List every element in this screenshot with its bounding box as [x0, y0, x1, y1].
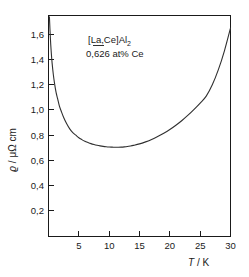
x-tick-label: 5 — [76, 240, 81, 251]
x-axis-title-rest: / K — [194, 257, 209, 268]
x-tick-label: 15 — [134, 240, 145, 251]
annotation-la: La — [91, 34, 102, 45]
y-axis-title-rest: / μΩ cm — [7, 128, 18, 166]
x-tick-label: 25 — [195, 240, 206, 251]
annotation-ce-al: ,Ce]Al — [101, 34, 127, 45]
y-tick-label: 0,4 — [31, 180, 44, 191]
y-tick-label: 0,8 — [31, 130, 44, 141]
annotation-formula: [La,Ce]Al2 — [88, 34, 131, 47]
svg-text:ϱ / μΩ cm: ϱ / μΩ cm — [7, 128, 18, 171]
svg-text:T / K: T / K — [188, 257, 209, 268]
resistivity-chart: 0,2 0,4 0,6 0,8 1,0 1,2 1,4 1,6 5 10 15 … — [0, 0, 249, 277]
x-tick-label: 30 — [225, 240, 236, 251]
annotation-subscript: 2 — [127, 40, 131, 47]
x-tick-label: 10 — [104, 240, 115, 251]
y-tick-label: 1,4 — [31, 54, 44, 65]
y-tick-label: 1,2 — [31, 79, 44, 90]
figure-panel: 0,2 0,4 0,6 0,8 1,0 1,2 1,4 1,6 5 10 15 … — [0, 0, 249, 277]
x-tick-label: 20 — [165, 240, 176, 251]
annotation-concentration: 0,626 at% Ce — [86, 48, 144, 59]
y-tick-label: 1,6 — [31, 29, 44, 40]
y-axis-title: ϱ / μΩ cm — [7, 128, 18, 171]
x-axis-title: T / K — [188, 257, 209, 268]
y-tick-label: 0,6 — [31, 155, 44, 166]
y-tick-label: 1,0 — [31, 104, 44, 115]
y-tick-label: 0,2 — [31, 205, 44, 216]
